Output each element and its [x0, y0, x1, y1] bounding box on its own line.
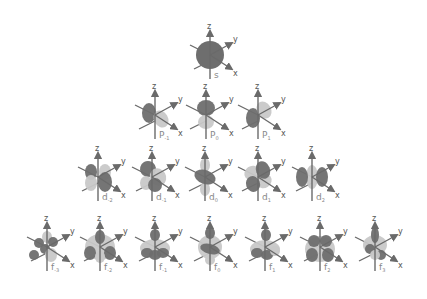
orbital-p1: zyxP1 — [228, 83, 288, 147]
orbital-label-subscript: -2 — [108, 197, 113, 203]
orbital-graphic — [180, 23, 240, 87]
z-axis-label: z — [202, 145, 206, 153]
orbital-label-subscript: 2 — [327, 267, 330, 273]
z-axis-label: z — [309, 145, 313, 153]
orbital-graphic — [290, 215, 350, 279]
z-axis-label: z — [97, 215, 101, 223]
orbital-f0: zyxf0 — [180, 215, 240, 279]
x-axis-label: x — [233, 70, 238, 78]
z-axis-label: z — [207, 23, 211, 31]
orbital-label: d1 — [262, 193, 271, 205]
x-axis-label: x — [281, 130, 286, 138]
z-axis-label: z — [255, 83, 259, 91]
orbital-p0: zyxP0 — [176, 83, 236, 147]
orbital-f3: zyxf3 — [345, 215, 405, 279]
orbital-d2: zyxd2 — [282, 145, 342, 209]
orbital-f1: zyxf1 — [235, 215, 295, 279]
z-axis-label: z — [95, 145, 99, 153]
orbital-label: P0 — [210, 131, 219, 143]
orbital-label: s — [214, 71, 219, 83]
orbital-f-2: zyxf-2 — [70, 215, 130, 279]
orbital-graphic — [125, 215, 185, 279]
orbital-graphic — [228, 83, 288, 147]
orbital-label: P1 — [262, 131, 271, 143]
orbital-graphic — [17, 215, 77, 279]
orbital-s: zyxs — [180, 23, 240, 87]
z-axis-label: z — [152, 215, 156, 223]
orbital-label: f1 — [269, 263, 275, 275]
orbital-label-subscript: 2 — [322, 197, 325, 203]
orbital-graphic — [235, 215, 295, 279]
orbital-graphic — [345, 215, 405, 279]
orbital-label-subscript: -1 — [164, 135, 169, 141]
orbital-label: d2 — [316, 193, 325, 205]
orbital-graphic — [282, 145, 342, 209]
orbital-graphic — [176, 83, 236, 147]
y-axis-label: y — [398, 228, 403, 236]
orbital-label-subscript: 0 — [217, 267, 220, 273]
orbital-f2: zyxf2 — [290, 215, 350, 279]
z-axis-label: z — [372, 215, 376, 223]
orbital-d1: zyxd1 — [228, 145, 288, 209]
orbital-label-subscript: 3 — [382, 267, 385, 273]
z-axis-label: z — [317, 215, 321, 223]
orbital-graphic — [122, 145, 182, 209]
orbital-d0: zyxd0 — [175, 145, 235, 209]
orbital-label: d0 — [209, 193, 218, 205]
x-axis-label: x — [335, 192, 340, 200]
z-axis-label: z — [152, 83, 156, 91]
orbital-label: P-1 — [159, 131, 169, 143]
orbital-f-1: zyxf-1 — [125, 215, 185, 279]
x-axis-label: x — [398, 262, 403, 270]
orbital-label-subscript: -2 — [107, 267, 112, 273]
orbital-f-3: zyxf-3 — [17, 215, 77, 279]
orbital-label-subscript: 1 — [272, 267, 275, 273]
orbital-label-subscript: 1 — [267, 135, 270, 141]
orbital-label: f-1 — [159, 263, 167, 275]
orbital-label-subscript: -1 — [162, 267, 167, 273]
orbital-label: d-2 — [102, 193, 113, 205]
orbital-graphic — [68, 145, 128, 209]
y-axis-label: y — [335, 158, 340, 166]
orbital-graphic — [228, 145, 288, 209]
orbital-label-subscript: -1 — [162, 197, 167, 203]
z-axis-label: z — [203, 83, 207, 91]
y-axis-label: y — [233, 36, 238, 44]
orbital-label: f0 — [214, 263, 220, 275]
z-axis-label: z — [44, 215, 48, 223]
orbital-label: f-2 — [104, 263, 112, 275]
orbital-graphic — [180, 215, 240, 279]
y-axis-label: y — [281, 96, 286, 104]
orbital-label: d-1 — [156, 193, 167, 205]
z-axis-label: z — [207, 215, 211, 223]
orbital-label-base: s — [214, 70, 219, 80]
orbital-graphic — [175, 145, 235, 209]
orbital-label: f3 — [379, 263, 385, 275]
z-axis-label: z — [255, 145, 259, 153]
z-axis-label: z — [149, 145, 153, 153]
orbital-d-2: zyxd-2 — [68, 145, 128, 209]
orbital-label-subscript: 1 — [268, 197, 271, 203]
orbital-label: f-3 — [51, 263, 59, 275]
z-axis-label: z — [262, 215, 266, 223]
orbital-label: f2 — [324, 263, 330, 275]
orbital-label-subscript: 0 — [215, 135, 218, 141]
orbital-graphic — [70, 215, 130, 279]
orbital-label-subscript: -3 — [54, 267, 59, 273]
orbital-label-subscript: 0 — [215, 197, 218, 203]
orbital-d-1: zyxd-1 — [122, 145, 182, 209]
